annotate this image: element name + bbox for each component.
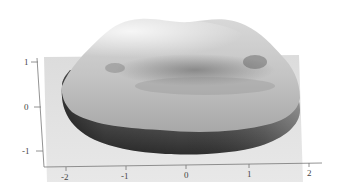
x-tick-label: 1 <box>247 169 252 179</box>
y-tick-label: 0 <box>24 102 29 112</box>
y-tick-label: 1 <box>24 57 29 67</box>
inner-shadow-left <box>105 63 125 73</box>
inner-shadow-right <box>243 55 267 69</box>
surface-plot: 1 0 -1 -2 -1 0 1 2 <box>0 0 346 182</box>
y-tick-label: -1 <box>22 146 30 156</box>
x-tick-label: 2 <box>307 168 312 178</box>
x-tick-label: 0 <box>184 170 189 180</box>
inner-shadow-mid <box>135 77 275 95</box>
x-tick-label: -2 <box>61 172 69 182</box>
x-tick-label: -1 <box>121 171 129 181</box>
